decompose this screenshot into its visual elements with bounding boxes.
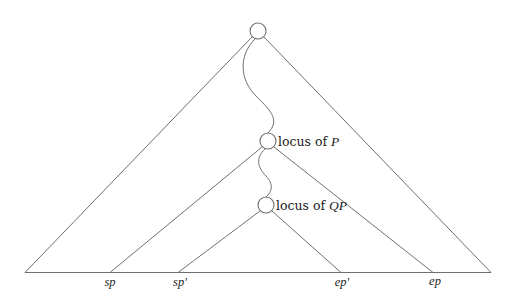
qp-node-label: locus of QP <box>276 198 347 213</box>
path-p-to-qp <box>259 149 272 197</box>
label-sp-prime: sp′ <box>173 275 187 289</box>
qp-left-edge <box>178 211 260 273</box>
label-sp: sp <box>104 275 115 289</box>
p-node-label: locus of P <box>278 134 339 149</box>
root-left-edge <box>25 37 252 273</box>
label-ep: ep <box>429 274 441 288</box>
root-node <box>250 23 266 39</box>
tree-diagram: locus of P locus of QP sp sp′ ep′ ep <box>0 0 521 307</box>
p-left-edge <box>110 147 262 273</box>
label-ep-prime: ep′ <box>335 275 350 289</box>
root-right-edge <box>264 37 491 273</box>
path-root-to-p <box>243 39 274 133</box>
qp-right-edge <box>272 211 341 273</box>
qp-node <box>258 197 274 213</box>
p-node <box>260 133 276 149</box>
